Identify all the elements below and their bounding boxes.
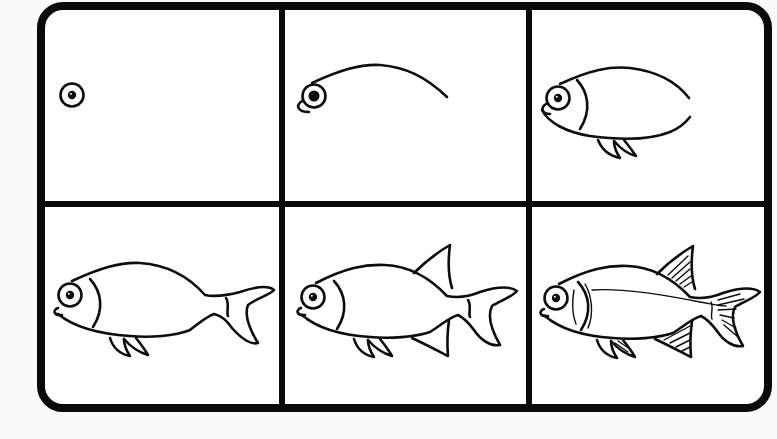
fish-eye-icon bbox=[547, 87, 570, 110]
fish-eye-icon bbox=[59, 284, 82, 307]
fish-drawing-tutorial bbox=[0, 0, 777, 439]
fish-eye-icon bbox=[303, 85, 326, 108]
fish-eye-icon bbox=[61, 84, 84, 107]
fish-eye-icon bbox=[545, 287, 568, 310]
fish-eye-icon bbox=[302, 286, 325, 309]
step-1-panel bbox=[61, 84, 84, 107]
